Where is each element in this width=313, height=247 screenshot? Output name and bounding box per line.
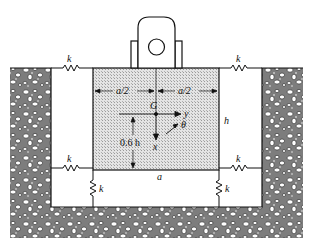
label-k-top-right: k (236, 53, 241, 64)
spring-vertical-right (216, 170, 222, 207)
label-half-width-right: a/2 (178, 85, 191, 96)
label-half-width-left: a/2 (116, 85, 129, 96)
label-rotation-theta: θ (181, 119, 186, 130)
spring-bottom-right (219, 165, 262, 171)
label-k-top-left: k (67, 53, 72, 64)
spring-vertical-left (90, 170, 96, 207)
label-k-bottom-right: k (236, 153, 241, 164)
label-height: h (224, 115, 229, 126)
label-center-of-gravity: G (150, 100, 157, 111)
spring-top-right (219, 65, 262, 71)
label-k-bottom-left: k (67, 153, 72, 164)
machine-mount (131, 17, 182, 68)
label-cg-height: 0.6 h (120, 137, 140, 148)
label-k-vertical-left: k (99, 183, 104, 194)
label-width: a (157, 171, 162, 182)
diagram-canvas: k k k k k k a/2 a/2 G y x θ h 0.6 h a (0, 0, 313, 247)
label-axis-x: x (152, 141, 158, 152)
label-k-vertical-right: k (225, 183, 230, 194)
label-axis-y: y (183, 108, 189, 119)
spring-top-left (51, 65, 93, 71)
spring-bottom-left (51, 165, 93, 171)
